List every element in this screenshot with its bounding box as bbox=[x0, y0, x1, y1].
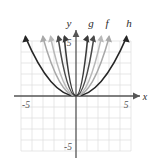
graph-figure: y g f h x -5 5 5 -5 bbox=[0, 0, 154, 168]
y-tick-negative-5: -5 bbox=[64, 142, 72, 152]
x-tick-positive-5: 5 bbox=[124, 100, 129, 110]
x-axis-label: x bbox=[142, 91, 148, 102]
x-tick-negative-5: -5 bbox=[22, 100, 30, 110]
curve-label-g: g bbox=[88, 17, 94, 29]
y-tick-positive-5: 5 bbox=[67, 38, 72, 48]
curve-label-y: y bbox=[66, 17, 72, 29]
parabola-family-plot: y g f h x -5 5 5 -5 bbox=[0, 0, 154, 168]
curve-label-h: h bbox=[126, 17, 132, 29]
